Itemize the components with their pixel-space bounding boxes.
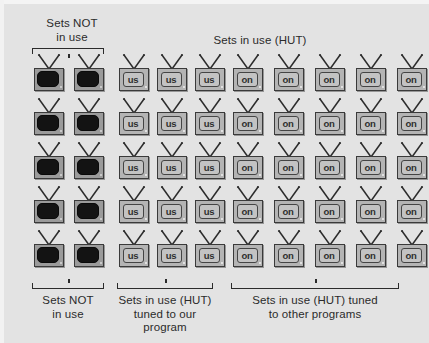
tv-body: on (356, 112, 386, 135)
tv-screen: on (401, 248, 422, 263)
tv-body: us (119, 156, 149, 179)
tv-body: on (274, 112, 304, 135)
antenna-icon (397, 53, 427, 69)
tv-icon-tuned-to-other-programs: on (315, 156, 345, 179)
antenna-icon (233, 185, 263, 201)
tv-screen (77, 115, 99, 131)
antenna-icon (274, 141, 304, 157)
antenna-icon (397, 229, 427, 245)
tv-screen (37, 159, 59, 175)
tv-screen: us (123, 160, 144, 175)
tv-icon-tuned-to-other-programs: on (233, 200, 263, 223)
tv-knob (100, 262, 102, 264)
tv-body: on (315, 200, 345, 223)
antenna-icon (74, 229, 104, 245)
tv-body: on (315, 156, 345, 179)
tv-body: on (356, 156, 386, 179)
antenna-icon (74, 97, 104, 113)
tv-screen: on (278, 204, 299, 219)
tv-screen (77, 71, 99, 87)
antenna-icon (233, 229, 263, 245)
tv-icon-tuned-to-other-programs: on (315, 244, 345, 267)
antenna-icon (119, 53, 149, 69)
tv-knob (60, 130, 62, 132)
tv-screen: on (237, 160, 258, 175)
tv-knob (183, 174, 185, 176)
bottom-bracket-sets-not-in-use (32, 283, 104, 289)
tv-icon-tuned-to-other-programs: on (397, 200, 427, 223)
tv-icon-sets-not-in-use (74, 244, 104, 267)
caption-sets-not-in-use: Sets NOT in use (18, 294, 118, 321)
tv-body (74, 112, 104, 135)
antenna-icon (356, 141, 386, 157)
tv-knob (341, 130, 343, 132)
tv-screen: on (360, 248, 381, 263)
tv-knob (145, 262, 147, 264)
tv-body: on (397, 200, 427, 223)
tv-screen: on (237, 72, 258, 87)
tv-screen (37, 247, 59, 263)
tv-knob (60, 86, 62, 88)
tv-icon-tuned-to-our-program: us (119, 112, 149, 135)
tv-screen: on (237, 204, 258, 219)
antenna-icon (157, 53, 187, 69)
tv-icon-tuned-to-other-programs: on (315, 68, 345, 91)
tv-knob (60, 218, 62, 220)
tv-icon-tuned-to-other-programs: on (233, 244, 263, 267)
antenna-icon (34, 53, 64, 69)
tv-knob (300, 262, 302, 264)
tv-icon-tuned-to-our-program: us (195, 156, 225, 179)
tv-icon-tuned-to-our-program: us (119, 68, 149, 91)
antenna-icon (315, 229, 345, 245)
tv-icon-sets-not-in-use (34, 200, 64, 223)
tv-icon-tuned-to-other-programs: on (356, 156, 386, 179)
tv-screen: us (161, 72, 182, 87)
tv-knob (183, 218, 185, 220)
tv-screen: us (199, 248, 220, 263)
antenna-icon (119, 97, 149, 113)
tv-knob (300, 218, 302, 220)
tv-screen (37, 203, 59, 219)
tv-screen: us (199, 204, 220, 219)
antenna-icon (356, 185, 386, 201)
tv-body: on (397, 244, 427, 267)
tv-body: on (233, 244, 263, 267)
tv-screen: on (360, 72, 381, 87)
tv-screen: on (401, 116, 422, 131)
tv-body (34, 200, 64, 223)
tv-icon-tuned-to-other-programs: on (397, 68, 427, 91)
antenna-icon (315, 97, 345, 113)
antenna-icon (315, 185, 345, 201)
tv-icon-tuned-to-our-program: us (195, 200, 225, 223)
antenna-icon (315, 53, 345, 69)
antenna-icon (195, 185, 225, 201)
tv-icon-tuned-to-other-programs: on (397, 156, 427, 179)
tv-body: on (233, 200, 263, 223)
antenna-icon (397, 185, 427, 201)
tv-body: on (356, 68, 386, 91)
antenna-icon (157, 141, 187, 157)
tv-body: on (397, 156, 427, 179)
tv-knob (259, 174, 261, 176)
tv-screen: on (401, 204, 422, 219)
tv-knob (100, 86, 102, 88)
tv-icon-sets-not-in-use (34, 244, 64, 267)
antenna-icon (157, 185, 187, 201)
tv-icon-tuned-to-our-program: us (195, 112, 225, 135)
tv-body (34, 156, 64, 179)
tv-icon-tuned-to-our-program: us (157, 244, 187, 267)
tv-screen: on (401, 72, 422, 87)
antenna-icon (274, 229, 304, 245)
tv-body (34, 244, 64, 267)
antenna-icon (397, 141, 427, 157)
tv-body: us (157, 156, 187, 179)
antenna-icon (233, 53, 263, 69)
antenna-icon (119, 141, 149, 157)
tv-icon-sets-not-in-use (34, 68, 64, 91)
antenna-icon (74, 53, 104, 69)
tv-knob (341, 218, 343, 220)
tv-screen: us (123, 248, 144, 263)
tv-knob (423, 174, 425, 176)
tv-icon-tuned-to-other-programs: on (315, 200, 345, 223)
antenna-icon (274, 97, 304, 113)
